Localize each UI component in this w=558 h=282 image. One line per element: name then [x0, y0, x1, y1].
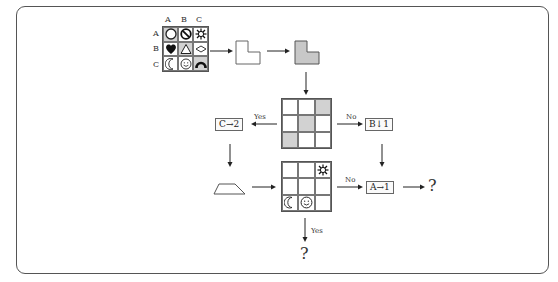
cell-bb — [178, 42, 193, 57]
row-label-a: A — [153, 29, 159, 38]
crescent-moon-icon — [165, 58, 177, 70]
grid2-cell — [298, 99, 314, 115]
grid3-cell — [315, 178, 331, 194]
cell-ba — [163, 42, 178, 57]
grid3-cell — [315, 195, 331, 211]
arrow-right-icon — [252, 183, 278, 191]
arrow-right-icon — [337, 120, 365, 128]
col-label-a: A — [165, 15, 171, 24]
grid2-cell-shaded — [298, 115, 314, 131]
grid2-cell — [298, 132, 314, 148]
arrow-right-icon — [210, 47, 234, 55]
arrow-down-icon — [226, 144, 234, 168]
diamond-icon — [195, 44, 207, 54]
grid2-cell — [282, 115, 298, 131]
pattern-grid — [281, 98, 332, 149]
question-mark-right: ? — [428, 176, 437, 195]
smiley-icon — [180, 58, 192, 70]
cell-ab — [178, 27, 193, 42]
grid2-cell — [315, 132, 331, 148]
result-grid — [281, 161, 332, 212]
grid3-cell — [282, 178, 298, 194]
arrow-down-icon — [302, 72, 310, 96]
triangle-icon — [180, 43, 192, 55]
cell-bc — [193, 42, 208, 57]
arrow-down-icon — [378, 144, 386, 168]
rule-box-a-to-1: A→1 — [366, 181, 394, 194]
trapezoid-icon — [213, 183, 247, 196]
arrow-right-icon — [337, 183, 365, 191]
symbol-grid — [162, 26, 209, 72]
grid3-cell-moon — [282, 195, 298, 211]
yes-label-down: Yes — [311, 227, 323, 235]
arrow-left-icon — [250, 120, 278, 128]
grid3-cell — [282, 162, 298, 178]
cell-cc — [193, 56, 208, 71]
cell-ac — [193, 27, 208, 42]
cell-cb — [178, 56, 193, 71]
arrow-down-icon — [301, 218, 309, 244]
grid2-cell — [282, 99, 298, 115]
cell-aa — [163, 27, 178, 42]
rule-box-b-down-1: B↓1 — [365, 118, 393, 131]
crescent-moon-icon — [284, 196, 296, 209]
l-shape-outline-icon — [235, 40, 261, 65]
grid2-cell — [315, 115, 331, 131]
grid3-cell — [298, 162, 314, 178]
arch-icon — [195, 58, 207, 70]
no-sign-icon — [180, 28, 192, 40]
smiley-icon — [300, 196, 313, 209]
row-label-b: B — [153, 44, 159, 53]
circle-icon — [165, 28, 177, 40]
col-label-b: B — [181, 15, 187, 24]
grid2-cell-shaded — [315, 99, 331, 115]
question-mark-bottom: ? — [300, 244, 309, 263]
row-label-c: C — [153, 60, 159, 69]
arrow-right-icon — [267, 47, 291, 55]
grid2-cell-shaded — [282, 132, 298, 148]
rule-box-c-to-2: C→2 — [215, 118, 243, 131]
sun-icon — [195, 28, 207, 40]
arrow-right-icon — [403, 183, 427, 191]
l-shape-filled-icon — [294, 40, 320, 65]
grid3-cell — [298, 178, 314, 194]
heart-icon — [165, 43, 177, 55]
grid3-cell-smiley — [298, 195, 314, 211]
grid3-cell-sun — [315, 162, 331, 178]
sun-icon — [317, 164, 329, 176]
cell-ca — [163, 56, 178, 71]
col-label-c: C — [196, 15, 202, 24]
